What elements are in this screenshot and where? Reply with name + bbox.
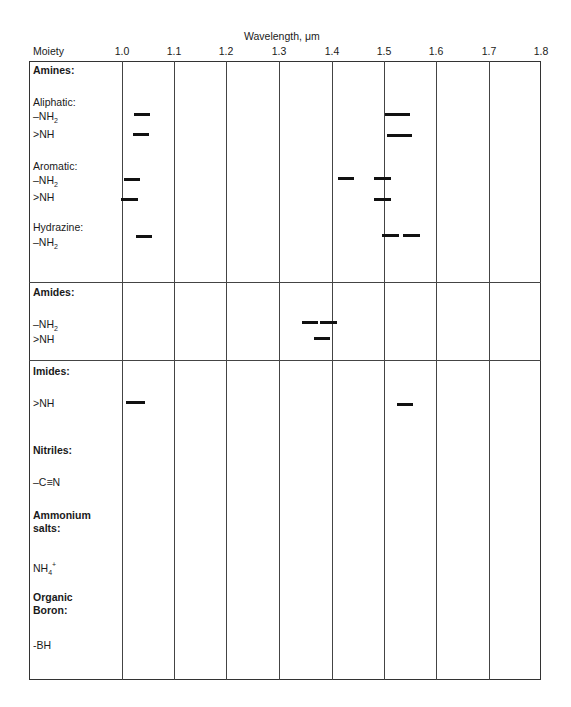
band-bar	[136, 235, 152, 238]
gridline-1.2	[226, 61, 227, 680]
gridline-1.4	[332, 61, 333, 680]
band-bar	[134, 113, 150, 116]
band-bar	[338, 177, 354, 180]
row-organic-boron-bh: -BH	[33, 639, 51, 652]
band-bar	[121, 198, 138, 201]
row-nitriles-cn: –C≡N	[33, 476, 60, 489]
band-bar	[374, 198, 391, 201]
tick-1.1: 1.1	[167, 45, 182, 57]
row-aliphatic-nh: >NH	[33, 128, 54, 141]
band-table-frame	[29, 61, 541, 680]
divider-amides-imides	[29, 360, 541, 361]
band-bar	[133, 133, 149, 136]
axis-header-row: Moiety 1.0 1.1 1.2 1.3 1.4 1.5 1.6 1.7 1…	[0, 45, 571, 59]
tick-1.7: 1.7	[482, 45, 497, 57]
row-amides-nh: >NH	[33, 333, 54, 346]
band-bar	[314, 337, 330, 340]
gridline-1.3	[279, 61, 280, 680]
gridline-1.6	[436, 61, 437, 680]
band-bar	[403, 234, 420, 237]
group-amines: Amines:	[33, 64, 74, 77]
group-organic-boron: OrganicBoron:	[33, 591, 73, 617]
band-bar	[387, 134, 412, 137]
gridline-1.5	[384, 61, 385, 680]
tick-1.0: 1.0	[115, 45, 130, 57]
moiety-column-header: Moiety	[33, 45, 64, 57]
group-imides: Imides:	[33, 365, 70, 378]
band-bar	[382, 234, 399, 237]
row-imides-nh: >NH	[33, 397, 54, 410]
subgroup-hydrazine: Hydrazine:	[33, 221, 83, 234]
gridline-1.1	[174, 61, 175, 680]
row-aromatic-nh2: –NH2	[33, 174, 58, 191]
row-aromatic-nh: >NH	[33, 191, 54, 204]
row-aliphatic-nh2: –NH2	[33, 110, 58, 127]
row-ammonium-nh4: NH4+	[33, 558, 56, 579]
band-bar	[126, 401, 145, 404]
tick-1.4: 1.4	[325, 45, 340, 57]
row-hydrazine-nh2: –NH2	[33, 236, 58, 253]
group-ammonium-salts: Ammoniumsalts:	[33, 509, 91, 535]
tick-1.2: 1.2	[219, 45, 234, 57]
tick-1.8: 1.8	[534, 45, 549, 57]
tick-1.5: 1.5	[377, 45, 392, 57]
band-bar	[302, 321, 318, 324]
band-bar	[374, 177, 391, 180]
group-nitriles: Nitriles:	[33, 444, 72, 457]
subgroup-aromatic: Aromatic:	[33, 160, 77, 173]
divider-amines-amides	[29, 282, 541, 283]
subgroup-aliphatic: Aliphatic:	[33, 96, 76, 109]
gridline-1.0	[122, 61, 123, 680]
band-bar	[385, 113, 410, 116]
group-amides: Amides:	[33, 286, 74, 299]
band-bar	[124, 178, 140, 181]
band-bar	[320, 321, 337, 324]
tick-1.6: 1.6	[429, 45, 444, 57]
gridline-1.7	[489, 61, 490, 680]
band-bar	[397, 403, 413, 406]
tick-1.3: 1.3	[272, 45, 287, 57]
